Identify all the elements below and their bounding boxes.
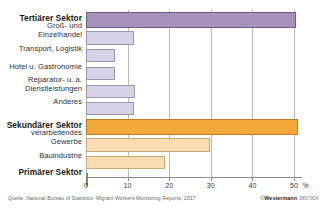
bar-row — [86, 49, 294, 62]
category-label-transport-logistik: Transport, Logistik — [19, 45, 82, 54]
tick-label-50: 50 — [290, 182, 298, 189]
x-axis-line — [86, 177, 302, 178]
bar-bauindustrie — [86, 156, 165, 169]
category-label-hotel-gastronomie: Hotel u. Gastronomie — [9, 63, 82, 72]
bar-row — [86, 67, 294, 80]
tick-label-40: 40 — [248, 182, 256, 189]
source-note: Quelle: National Bureau of Statistics: M… — [8, 195, 196, 201]
bar-sekundaerer-sektor — [86, 119, 298, 135]
plot-area — [86, 10, 294, 178]
bar-row — [86, 119, 294, 135]
bar-reparatur-dienstleistungen — [86, 85, 135, 98]
bar-chart-figure: Tertiärer Sektor Groß- und Einzelhandel … — [0, 0, 325, 209]
category-label-bauindustrie: Bauindustrie — [39, 152, 82, 161]
bar-row — [86, 173, 294, 186]
tick-label-30: 30 — [207, 182, 215, 189]
tick-mark-10 — [128, 177, 129, 181]
category-label-verarbeitendes-gewerbe: verarbeitendes Gewerbe — [31, 129, 82, 146]
gridline-50 — [294, 10, 295, 178]
tick-mark-0 — [86, 177, 87, 181]
bar-gross-und-einzelhandel — [86, 31, 134, 45]
bar-row — [86, 138, 294, 152]
copyright-note: ©Westermann 386790X — [260, 195, 319, 201]
bar-row — [86, 85, 294, 98]
tick-mark-20 — [169, 177, 170, 181]
bar-verarbeitendes-gewerbe — [86, 138, 210, 152]
axis-unit-label: % — [303, 182, 309, 189]
category-label-anderes: Anderes — [53, 98, 82, 107]
bar-row — [86, 102, 294, 115]
category-label-gross-und-einzelhandel: Groß- und Einzelhandel — [38, 22, 82, 39]
bar-tertiaerer-sektor — [86, 12, 296, 28]
category-label-reparatur-dienstleistungen: Reparatur- u. a. Dienstleistungen — [25, 76, 82, 93]
bar-anderes — [86, 102, 134, 115]
tick-mark-40 — [252, 177, 253, 181]
tick-mark-50 — [294, 177, 295, 181]
tick-label-0: 0 — [84, 182, 88, 189]
bar-row — [86, 31, 294, 45]
tick-mark-30 — [211, 177, 212, 181]
tick-label-20: 20 — [165, 182, 173, 189]
bar-row — [86, 12, 294, 28]
tick-label-10: 10 — [124, 182, 132, 189]
product-code: 386790X — [299, 195, 319, 201]
bar-hotel-gastronomie — [86, 67, 115, 80]
bar-row — [86, 156, 294, 169]
bar-transport-logistik — [86, 49, 115, 62]
category-label-primaerer-sektor: Primärer Sektor — [18, 168, 82, 177]
publisher-name: Westermann — [264, 195, 297, 201]
